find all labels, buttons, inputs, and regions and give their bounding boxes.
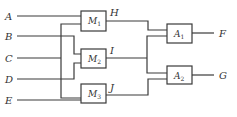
- input-wires: [17, 16, 81, 100]
- signal-label-j: J: [108, 82, 115, 93]
- circuit-diagram: A B C D E M1 M2 M3 H I J: [0, 0, 237, 117]
- input-label-d: D: [4, 74, 13, 85]
- output-label-g: G: [219, 70, 227, 81]
- input-label-c: C: [5, 53, 13, 64]
- wire-j: [106, 79, 167, 95]
- wire-b: [17, 36, 81, 54]
- input-label-e: E: [4, 95, 13, 106]
- block-m3: M3: [81, 84, 106, 103]
- block-a2: A2: [167, 66, 192, 84]
- input-label-a: A: [4, 11, 12, 22]
- signal-label-i: I: [109, 45, 115, 56]
- signal-label-h: H: [109, 7, 119, 18]
- block-m1: M1: [81, 11, 106, 31]
- wire-d: [17, 63, 81, 79]
- wire-h: [106, 21, 167, 30]
- output-label-f: F: [218, 28, 227, 39]
- wire-c-trunk: [61, 24, 81, 98]
- intermediate-wires: [106, 21, 167, 95]
- block-a1: A1: [167, 24, 192, 43]
- block-m2: M2: [81, 49, 106, 68]
- wire-i-trunk: [147, 36, 167, 73]
- input-label-b: B: [4, 31, 12, 42]
